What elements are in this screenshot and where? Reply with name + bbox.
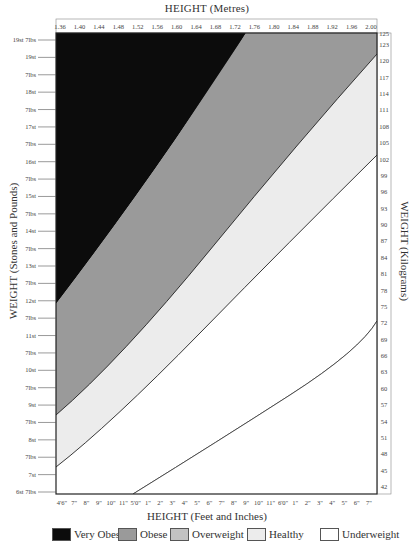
tick-label: 10st	[25, 366, 36, 373]
tick-label: 13st	[25, 262, 36, 269]
tick-label: 1"	[292, 499, 298, 506]
tick-label: 7"	[219, 499, 225, 506]
tick-label: 60	[381, 385, 388, 392]
tick-label: 18st	[25, 88, 36, 95]
right-tick-band	[377, 33, 391, 494]
tick-label: 6"	[354, 499, 360, 506]
tick-label: 1.60	[171, 23, 182, 30]
tick-label: 9st	[28, 401, 36, 408]
tick-label: 5'0"	[131, 499, 142, 506]
tick-label: 6"	[206, 499, 212, 506]
tick-label: 1.72	[229, 23, 240, 30]
tick-label: 111	[379, 106, 388, 113]
tick-label: 2.00	[365, 23, 376, 30]
tick-label: 7st	[28, 471, 36, 478]
tick-label: 7lbs	[25, 210, 36, 217]
tick-label: 1.64	[190, 23, 202, 30]
tick-label: 15st	[25, 192, 36, 199]
bottom-axis-title: HEIGHT (Feet and Inches)	[0, 510, 414, 522]
tick-label: 3"	[170, 499, 176, 506]
tick-label: 125	[379, 30, 389, 37]
tick-label: 69	[381, 336, 388, 343]
tick-label: 7lbs	[25, 71, 36, 78]
tick-label: 7lbs	[25, 140, 36, 147]
tick-label: 99	[381, 172, 388, 179]
tick-label: 1.52	[132, 23, 143, 30]
tick-label: 6st 7lbs	[16, 488, 37, 495]
tick-label: 8"	[231, 499, 237, 506]
tick-label: 7lbs	[25, 245, 36, 252]
tick-label: 8"	[84, 499, 90, 506]
tick-label: 1.80	[268, 23, 279, 30]
tick-label: 3"	[317, 499, 323, 506]
tick-label: 90	[381, 221, 388, 228]
tick-label: 1.68	[210, 23, 221, 30]
legend-label: Underweight	[342, 528, 399, 540]
top-axis-ticks: 1.361.401.441.481.521.561.601.641.681.72…	[54, 23, 376, 30]
tick-label: 96	[381, 188, 388, 195]
tick-label: 1.96	[346, 23, 358, 30]
tick-label: 7lbs	[25, 279, 36, 286]
tick-label: 66	[381, 352, 388, 359]
tick-label: 93	[381, 205, 388, 212]
legend-obese: Obese	[118, 526, 168, 542]
tick-label: 7lbs	[25, 314, 36, 321]
tick-label: 8st	[28, 436, 36, 443]
tick-label: 45	[381, 467, 388, 474]
overweight-swatch	[170, 528, 189, 541]
tick-label: 87	[381, 237, 388, 244]
tick-label: 2"	[157, 499, 163, 506]
legend-healthy: Healthy	[247, 526, 304, 542]
tick-label: 19st	[25, 53, 36, 60]
tick-label: 120	[379, 57, 389, 64]
tick-label: 7"	[71, 499, 77, 506]
legend-label: Overweight	[192, 528, 244, 540]
tick-label: 11"	[119, 499, 128, 506]
tick-label: 7lbs	[25, 349, 36, 356]
tick-label: 51	[381, 434, 388, 441]
tick-label: 4"	[182, 499, 188, 506]
tick-label: 1.44	[93, 23, 105, 30]
healthy-swatch	[247, 528, 266, 541]
tick-label: 63	[381, 368, 388, 375]
bmi-chart: 1.361.401.441.481.521.561.601.641.681.72…	[0, 0, 414, 510]
tick-label: 14st	[25, 227, 36, 234]
tick-label: 102	[379, 156, 389, 163]
tick-label: 17st	[25, 123, 36, 130]
tick-label: 72	[381, 319, 388, 326]
tick-label: 1"	[145, 499, 151, 506]
tick-label: 75	[381, 303, 388, 310]
tick-label: 11"	[266, 499, 275, 506]
tick-label: 78	[381, 287, 388, 294]
legend-very-obese: Very Obese	[52, 526, 125, 542]
tick-label: 7"	[366, 499, 372, 506]
legend-underweight: Underweight	[320, 526, 399, 542]
tick-label: 7lbs	[25, 453, 36, 460]
tick-label: 12st	[25, 297, 36, 304]
underweight-swatch	[320, 528, 339, 541]
tick-label: 42	[381, 483, 388, 490]
tick-label: 7lbs	[25, 418, 36, 425]
legend-overweight: Overweight	[170, 526, 244, 542]
tick-label: 123	[379, 41, 389, 48]
tick-label: 9"	[96, 499, 102, 506]
tick-label: 4'6"	[57, 499, 68, 506]
left-axis-ticks: 19st 7lbs19st7lbs18st7lbs17st7lbs16st7lb…	[13, 36, 56, 495]
tick-label: 48	[381, 450, 388, 457]
tick-label: 54	[381, 418, 388, 425]
tick-label: 1.56	[152, 23, 164, 30]
tick-label: 5"	[341, 499, 347, 506]
tick-label: 117	[379, 74, 389, 81]
tick-label: 1.36	[54, 23, 66, 30]
legend-label: Healthy	[269, 528, 304, 540]
tick-label: 9"	[243, 499, 249, 506]
tick-label: 5"	[194, 499, 200, 506]
obese-swatch	[118, 528, 137, 541]
tick-label: 105	[379, 139, 389, 146]
tick-label: 16st	[25, 158, 36, 165]
plot-area	[56, 33, 377, 494]
tick-label: 11st	[25, 332, 36, 339]
tick-label: 1.84	[288, 23, 300, 30]
tick-label: 84	[381, 254, 388, 261]
legend-label: Obese	[140, 528, 168, 540]
